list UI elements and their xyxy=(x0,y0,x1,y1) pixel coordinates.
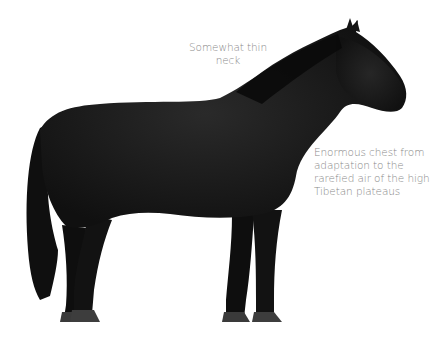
ear xyxy=(346,18,354,30)
annotation-chest: Enormous chest from adaptation to the ra… xyxy=(314,146,446,198)
annotation-neck: Somewhat thin neck xyxy=(178,41,278,67)
annotation-neck-line: neck xyxy=(178,54,278,67)
annotation-chest-line: rarefied air of the high xyxy=(314,172,446,185)
hoof xyxy=(252,312,282,322)
annotation-chest-line: adaptation to the xyxy=(314,159,446,172)
hoof xyxy=(222,312,250,322)
front-leg-near xyxy=(252,210,282,318)
annotation-neck-line: Somewhat thin xyxy=(178,41,278,54)
annotation-chest-line: Enormous chest from xyxy=(314,146,446,159)
hoof xyxy=(70,310,100,322)
front-leg-far xyxy=(226,215,254,318)
annotation-chest-line: Tibetan plateaus xyxy=(314,185,446,198)
horse-breed-illustration: Somewhat thin neck Enormous chest from a… xyxy=(0,0,446,352)
